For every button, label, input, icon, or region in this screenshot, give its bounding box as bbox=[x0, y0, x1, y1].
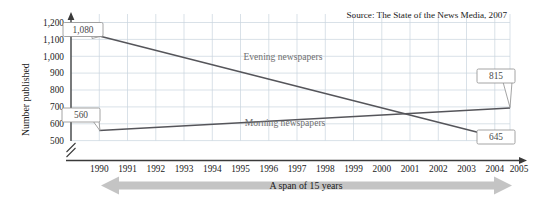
callout-1080[interactable]: 1,080 bbox=[63, 23, 103, 39]
line-chart: 1,200 1,100 1,000 900 800 700 600 500 Nu… bbox=[0, 0, 541, 198]
series-label-evening-newspapers: Evening newspapers bbox=[243, 51, 322, 62]
callout-560-label: 560 bbox=[74, 110, 88, 120]
x-axis-tick-labels: 1990 1991 1992 1993 1994 1995 1996 1997 … bbox=[90, 164, 529, 174]
series-label-morning-newspapers: Morning newspapers bbox=[245, 117, 326, 128]
y-tick-label-1200: 1,200 bbox=[43, 18, 64, 28]
x-tick-label-2005: 2005 bbox=[510, 164, 529, 174]
y-tick-label-500: 500 bbox=[50, 136, 64, 146]
y-tick-label-900: 900 bbox=[50, 68, 64, 78]
chart-figure: 1,200 1,100 1,000 900 800 700 600 500 Nu… bbox=[0, 0, 541, 198]
x-tick-label-2004: 2004 bbox=[486, 164, 505, 174]
callout-815-label: 815 bbox=[489, 71, 503, 81]
x-tick-label-2003: 2003 bbox=[457, 164, 476, 174]
callout-815-tail bbox=[503, 82, 512, 108]
x-tick-label-2001: 2001 bbox=[401, 164, 420, 174]
y-tick-label-1000: 1,000 bbox=[43, 52, 64, 62]
x-tick-label-1995: 1995 bbox=[231, 164, 250, 174]
span-banner: A span of 15 years bbox=[101, 177, 512, 195]
y-tick-label-800: 800 bbox=[50, 85, 64, 95]
x-axis-arrowhead bbox=[519, 157, 527, 164]
callout-815[interactable]: 815 bbox=[477, 69, 515, 108]
x-tick-label-2002: 2002 bbox=[429, 164, 448, 174]
chart-axes bbox=[66, 12, 527, 164]
x-tick-label-1996: 1996 bbox=[260, 164, 279, 174]
y-axis-tick-labels: 1,200 1,100 1,000 900 800 700 600 500 bbox=[43, 18, 64, 146]
x-tick-label-1990: 1990 bbox=[90, 164, 109, 174]
y-tick-label-1100: 1,100 bbox=[43, 35, 64, 45]
x-tick-label-1997: 1997 bbox=[288, 164, 307, 174]
x-tick-label-1998: 1998 bbox=[316, 164, 335, 174]
x-tick-label-2000: 2000 bbox=[373, 164, 392, 174]
callout-560[interactable]: 560 bbox=[62, 108, 100, 131]
callout-645[interactable]: 645 bbox=[477, 130, 515, 144]
callout-1080-label: 1,080 bbox=[72, 25, 93, 35]
x-tick-label-1994: 1994 bbox=[203, 164, 222, 174]
source-note: Source: The State of the News Media, 200… bbox=[346, 10, 507, 20]
x-tick-label-1991: 1991 bbox=[118, 164, 137, 174]
x-tick-label-1992: 1992 bbox=[147, 164, 166, 174]
y-axis-arrowhead bbox=[68, 12, 75, 20]
y-axis-title: Number published bbox=[20, 63, 31, 136]
callout-560-tail bbox=[93, 121, 100, 131]
span-banner-label: A span of 15 years bbox=[270, 180, 343, 191]
callout-645-label: 645 bbox=[489, 132, 503, 142]
x-tick-label-1999: 1999 bbox=[344, 164, 363, 174]
y-axis-break-icon bbox=[67, 143, 76, 157]
x-tick-label-1993: 1993 bbox=[175, 164, 194, 174]
